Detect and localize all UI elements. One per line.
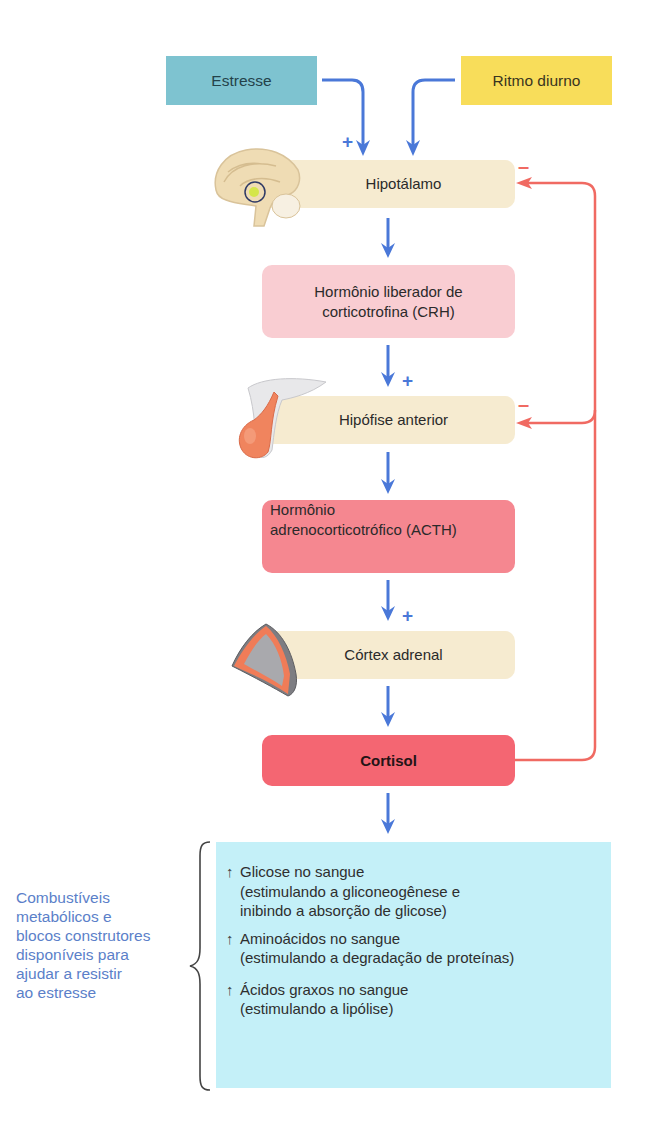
adrenal-cortex-label: Córtex adrenal: [344, 645, 442, 665]
effect-item-blood-amino-acids: ↑ Aminoácidos no sangue (estimulando a d…: [226, 929, 601, 968]
cortisol-label: Cortisol: [360, 751, 417, 771]
curly-brace-icon: [188, 840, 216, 1092]
acth-label-line2: adrenocorticotrófico (ACTH): [270, 520, 457, 540]
stress-input-box: Estresse: [166, 56, 317, 105]
acth-label-line1: Hormônio: [270, 500, 335, 520]
increase-arrow-icon: ↑: [226, 862, 240, 921]
stimulatory-plus-sign: +: [402, 370, 413, 392]
pituitary-gland-icon: [228, 374, 338, 464]
cortisol-box: Cortisol: [262, 735, 515, 786]
caption-line: disponíveis para: [16, 945, 196, 964]
effect-title: Ácidos graxos no sangue: [240, 980, 601, 1000]
diurnal-rhythm-input-box: Ritmo diurno: [461, 56, 612, 105]
brain-icon: [210, 142, 310, 228]
effects-caption: Combustíveis metabólicos e blocos constr…: [16, 888, 196, 1002]
effect-item-blood-glucose: ↑ Glicose no sangue (estimulando a glico…: [226, 862, 601, 921]
crh-label-line1: Hormônio liberador de: [314, 282, 462, 302]
effect-title: Glicose no sangue: [240, 862, 601, 882]
crh-box: Hormônio liberador de corticotrofina (CR…: [262, 265, 515, 338]
stimulatory-plus-sign: +: [402, 605, 413, 627]
pituitary-inhibitory-minus-sign: –: [518, 393, 529, 416]
effect-detail: inibindo a absorção de glicose): [240, 901, 601, 921]
effect-detail: (estimulando a lipólise): [240, 999, 601, 1019]
anterior-pituitary-label: Hipófise anterior: [339, 410, 448, 430]
stimulatory-plus-sign: +: [342, 131, 353, 153]
negative-feedback-loop: [515, 183, 595, 760]
hypothalamus-inhibitory-minus-sign: –: [518, 155, 529, 178]
caption-line: blocos construtores: [16, 926, 196, 945]
caption-line: Combustíveis: [16, 888, 196, 907]
diurnal-arrow: [413, 80, 455, 150]
crh-label-line2: corticotrofina (CRH): [322, 302, 455, 322]
caption-line: ao estresse: [16, 983, 196, 1002]
effect-title: Aminoácidos no sangue: [240, 929, 601, 949]
metabolic-effects-box: ↑ Glicose no sangue (estimulando a glico…: [216, 842, 611, 1088]
caption-line: metabólicos e: [16, 907, 196, 926]
stress-label: Estresse: [211, 71, 271, 91]
adrenal-gland-icon: [226, 622, 316, 702]
increase-arrow-icon: ↑: [226, 929, 240, 968]
acth-box: Hormônio adrenocorticotrófico (ACTH): [262, 500, 515, 573]
hypothalamus-label: Hipotálamo: [366, 174, 442, 194]
effect-item-blood-fatty-acids: ↑ Ácidos graxos no sangue (estimulando a…: [226, 980, 601, 1019]
increase-arrow-icon: ↑: [226, 980, 240, 1019]
diurnal-rhythm-label: Ritmo diurno: [493, 71, 581, 91]
effect-detail: (estimulando a gliconeogênese e: [240, 882, 601, 902]
caption-line: ajudar a resistir: [16, 964, 196, 983]
effect-detail: (estimulando a degradação de proteínas): [240, 948, 601, 968]
